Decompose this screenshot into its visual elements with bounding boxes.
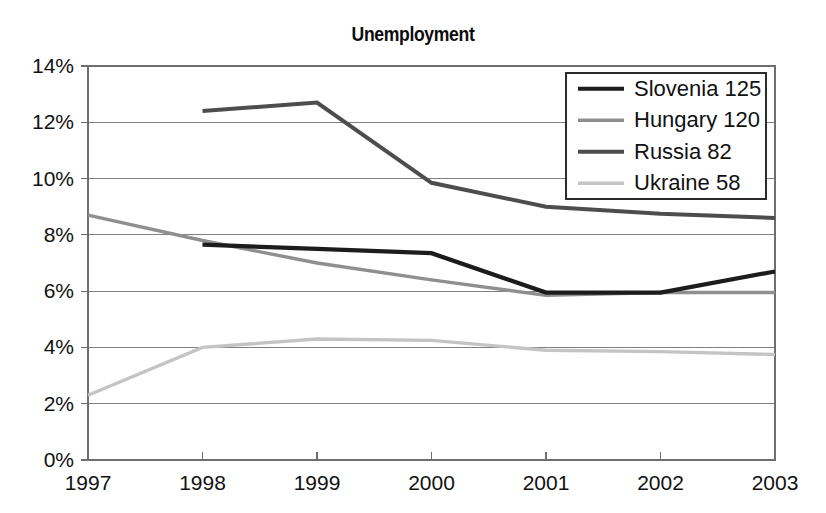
y-tick-label-0%: 0%	[44, 448, 74, 471]
x-tick-label-1998: 1998	[179, 471, 226, 494]
series-line-slovenia-125	[203, 245, 776, 293]
legend-label-hungary-120[interactable]: Hungary 120	[634, 107, 760, 132]
line-chart-plot: 0%2%4%6%8%10%12%14% 19971998199920002001…	[0, 0, 826, 513]
x-tick-label-2001: 2001	[523, 471, 570, 494]
y-tick-label-14%: 14%	[32, 54, 74, 77]
chart-container: Unemployment 0%2%4%6%8%10%12%14% 1997199…	[0, 0, 826, 513]
y-tick-label-2%: 2%	[44, 392, 74, 415]
y-axis-tick-labels: 0%2%4%6%8%10%12%14%	[32, 54, 88, 471]
y-tick-label-12%: 12%	[32, 110, 74, 133]
x-axis-tick-labels: 1997199819992000200120022003	[65, 471, 799, 494]
chart-legend[interactable]: Slovenia 125Hungary 120Russia 82Ukraine …	[566, 73, 766, 199]
x-tick-label-2000: 2000	[408, 471, 455, 494]
x-tick-label-2002: 2002	[637, 471, 684, 494]
y-tick-label-10%: 10%	[32, 167, 74, 190]
x-tick-label-2003: 2003	[752, 471, 799, 494]
legend-label-russia-82[interactable]: Russia 82	[634, 139, 732, 164]
legend-label-ukraine-58[interactable]: Ukraine 58	[634, 170, 740, 195]
x-tick-label-1999: 1999	[294, 471, 341, 494]
y-tick-label-8%: 8%	[44, 223, 74, 246]
legend-label-slovenia-125[interactable]: Slovenia 125	[634, 76, 761, 101]
x-axis-tickmarks	[88, 452, 775, 460]
x-tick-label-1997: 1997	[65, 471, 112, 494]
y-tick-label-6%: 6%	[44, 279, 74, 302]
y-tick-label-4%: 4%	[44, 335, 74, 358]
